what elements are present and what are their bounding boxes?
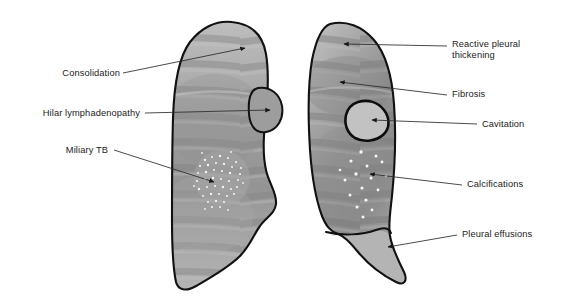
label-consolidation: Consolidation xyxy=(8,68,120,79)
label-miliary-tb-text: Miliary TB xyxy=(66,145,108,155)
label-pleural-effusions: Pleural effusions xyxy=(462,229,532,240)
label-fibrosis: Fibrosis xyxy=(452,89,485,100)
leader-pleural-effusions xyxy=(388,235,457,247)
label-pleural-effusions-text: Pleural effusions xyxy=(462,229,532,239)
label-cavitation-text: Cavitation xyxy=(482,119,524,129)
label-reactive-pleural-thickening-line1: Reactive pleural xyxy=(452,39,520,49)
label-hilar-lymphadenopathy: Hilar lymphadenopathy xyxy=(8,108,140,119)
label-reactive-pleural-thickening-line2: thickening xyxy=(452,50,495,60)
effusion-fill xyxy=(330,231,406,284)
label-consolidation-text: Consolidation xyxy=(62,68,120,78)
label-calcifications: Calcifications xyxy=(467,179,523,190)
right-lung-rib-texture xyxy=(300,18,420,298)
cavity-shape xyxy=(345,101,388,141)
label-fibrosis-text: Fibrosis xyxy=(452,89,485,99)
right-lung-cavity xyxy=(345,101,388,141)
label-hilar-lymphadenopathy-text: Hilar lymphadenopathy xyxy=(43,108,140,118)
right-lung-effusion-wedge xyxy=(326,228,406,283)
diagram-canvas: Consolidation Hilar lymphadenopathy Mili… xyxy=(0,0,562,298)
right-lung xyxy=(300,18,420,298)
label-miliary-tb: Miliary TB xyxy=(8,145,108,156)
leader-lines xyxy=(114,44,477,247)
label-cavitation: Cavitation xyxy=(482,119,524,130)
left-lung xyxy=(157,18,290,298)
label-calcifications-text: Calcifications xyxy=(467,179,523,189)
label-reactive-pleural-thickening: Reactive pleural thickening xyxy=(452,39,538,62)
